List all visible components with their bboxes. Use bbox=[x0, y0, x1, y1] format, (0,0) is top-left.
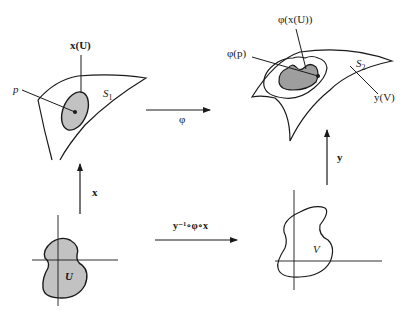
label-phi-xU: φ(x(U)) bbox=[278, 14, 312, 25]
label-xU: x(U) bbox=[70, 40, 91, 51]
label-y: y bbox=[337, 152, 343, 163]
region-phi-xU bbox=[279, 65, 318, 91]
point-phi-p bbox=[316, 74, 320, 78]
label-p: p bbox=[13, 84, 19, 95]
label-x: x bbox=[92, 187, 98, 198]
label-composite: y⁻¹∘φ∘x bbox=[173, 221, 208, 231]
point-p bbox=[73, 110, 77, 114]
surface-s1 bbox=[38, 75, 146, 160]
label-V: V bbox=[313, 244, 320, 255]
label-s2: S2 bbox=[356, 58, 366, 72]
label-phi: φ bbox=[179, 114, 185, 125]
domain-V bbox=[275, 190, 382, 290]
label-phi-p: φ(p) bbox=[227, 48, 246, 59]
label-yV: y(V) bbox=[374, 92, 395, 103]
pointer-line-phi-xU bbox=[296, 29, 306, 69]
label-U: U bbox=[65, 271, 73, 282]
domain-U bbox=[32, 215, 118, 306]
diagram-canvas bbox=[0, 0, 418, 322]
label-s1: S1 bbox=[103, 88, 113, 102]
